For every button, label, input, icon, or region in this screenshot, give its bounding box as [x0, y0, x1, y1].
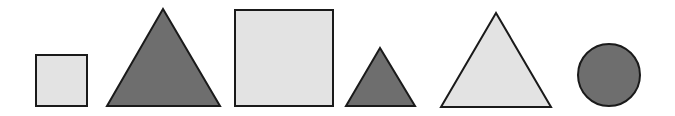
small-light-square [36, 55, 87, 106]
small-dark-triangle [346, 48, 415, 106]
large-light-triangle [441, 13, 551, 107]
shapes-svg [0, 0, 675, 116]
large-dark-triangle [107, 9, 220, 106]
dark-circle [578, 44, 640, 106]
shapes-diagram [0, 0, 675, 116]
large-light-square [235, 10, 333, 106]
